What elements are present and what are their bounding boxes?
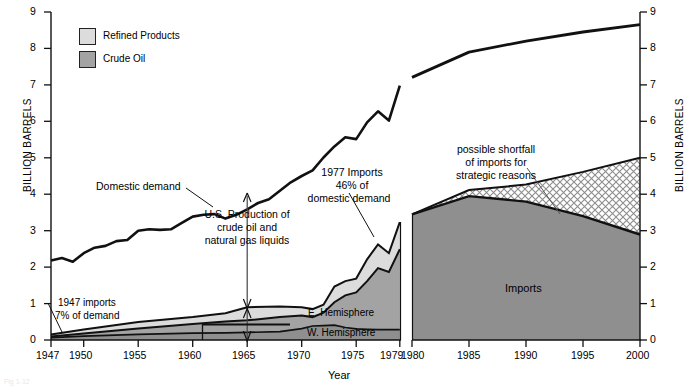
right-ytick-9: 9 bbox=[650, 6, 656, 17]
right-ytick-7: 7 bbox=[650, 79, 656, 90]
annotation-1977-imports-line3: domestic demand bbox=[294, 192, 404, 204]
right-y-axis-title: BILLION BARRELS bbox=[674, 98, 685, 192]
annotation-1977-imports-line1: 1977 Imports bbox=[300, 166, 404, 178]
legend-label-crude-oil: Crude Oil bbox=[103, 53, 145, 64]
right-xtick-2000: 2000 bbox=[626, 350, 649, 361]
annotation-w-hemisphere: W. Hemisphere bbox=[307, 327, 375, 338]
right-ytick-3: 3 bbox=[650, 225, 656, 236]
right-y-ticks bbox=[640, 12, 647, 340]
left-ytick-7: 7 bbox=[30, 79, 36, 90]
annotation-shortfall-line3: strategic reasons bbox=[440, 169, 552, 181]
left-y-axis-title: BILLION BARRELS bbox=[22, 98, 33, 192]
right-xtick-1985: 1985 bbox=[457, 350, 480, 361]
leader-domestic-demand bbox=[186, 188, 213, 207]
annotation-us-production-line3: natural gas liquids bbox=[189, 234, 305, 246]
right-xtick-1980: 1980 bbox=[401, 350, 424, 361]
left-ytick-3: 3 bbox=[30, 225, 36, 236]
legend-swatch-crude-oil bbox=[79, 51, 96, 68]
left-xtick-1979: 1979 bbox=[380, 350, 403, 361]
right-xtick-1990: 1990 bbox=[514, 350, 537, 361]
right-ytick-4: 4 bbox=[650, 188, 656, 199]
annotation-1977-imports-line2: 46% of bbox=[300, 179, 404, 191]
left-ytick-0: 0 bbox=[30, 334, 36, 345]
left-y-ticks bbox=[44, 12, 51, 340]
right-ytick-6: 6 bbox=[650, 115, 656, 126]
annotation-1947-imports-line2: 7% of demand bbox=[55, 310, 120, 321]
right-ytick-2: 2 bbox=[650, 261, 656, 272]
annotation-us-production-line2: crude oil and bbox=[189, 221, 305, 233]
figure-caption: Fig 1-12 bbox=[4, 378, 30, 385]
annotation-us-production-line1: U.S. Production of bbox=[189, 208, 305, 220]
left-xtick-1950: 1950 bbox=[69, 350, 92, 361]
annotation-shortfall-line2: of imports for bbox=[440, 156, 552, 168]
right-ytick-1: 1 bbox=[650, 298, 656, 309]
x-axis-title: Year bbox=[328, 370, 350, 381]
annotation-shortfall-line1: possible shortfall bbox=[440, 143, 552, 155]
annotation-1947-imports-line1: 1947 imports bbox=[58, 297, 116, 308]
right-ytick-8: 8 bbox=[650, 42, 656, 53]
left-ytick-8: 8 bbox=[30, 42, 36, 53]
left-ytick-9: 9 bbox=[30, 6, 36, 17]
left-xtick-1960: 1960 bbox=[178, 350, 201, 361]
legend-label-refined-products: Refined Products bbox=[103, 30, 180, 41]
line-domestic-demand-projection bbox=[412, 25, 640, 78]
annotation-domestic-demand: Domestic demand bbox=[96, 181, 181, 192]
left-xtick-1975: 1975 bbox=[341, 350, 364, 361]
right-x-ticks bbox=[412, 340, 640, 347]
right-xtick-1995: 1995 bbox=[571, 350, 594, 361]
annotation-imports: Imports bbox=[505, 283, 542, 294]
legend-swatch-refined-products bbox=[79, 28, 96, 45]
left-xtick-1955: 1955 bbox=[123, 350, 146, 361]
left-ytick-2: 2 bbox=[30, 261, 36, 272]
left-xtick-1970: 1970 bbox=[287, 350, 310, 361]
annotation-e-hemisphere: E. Hemisphere bbox=[308, 307, 374, 318]
right-ytick-5: 5 bbox=[650, 152, 656, 163]
left-ytick-1: 1 bbox=[30, 298, 36, 309]
right-ytick-0: 0 bbox=[650, 334, 656, 345]
left-xtick-1965: 1965 bbox=[232, 350, 255, 361]
left-xtick-1947: 1947 bbox=[36, 350, 59, 361]
left-x-ticks bbox=[51, 340, 400, 347]
